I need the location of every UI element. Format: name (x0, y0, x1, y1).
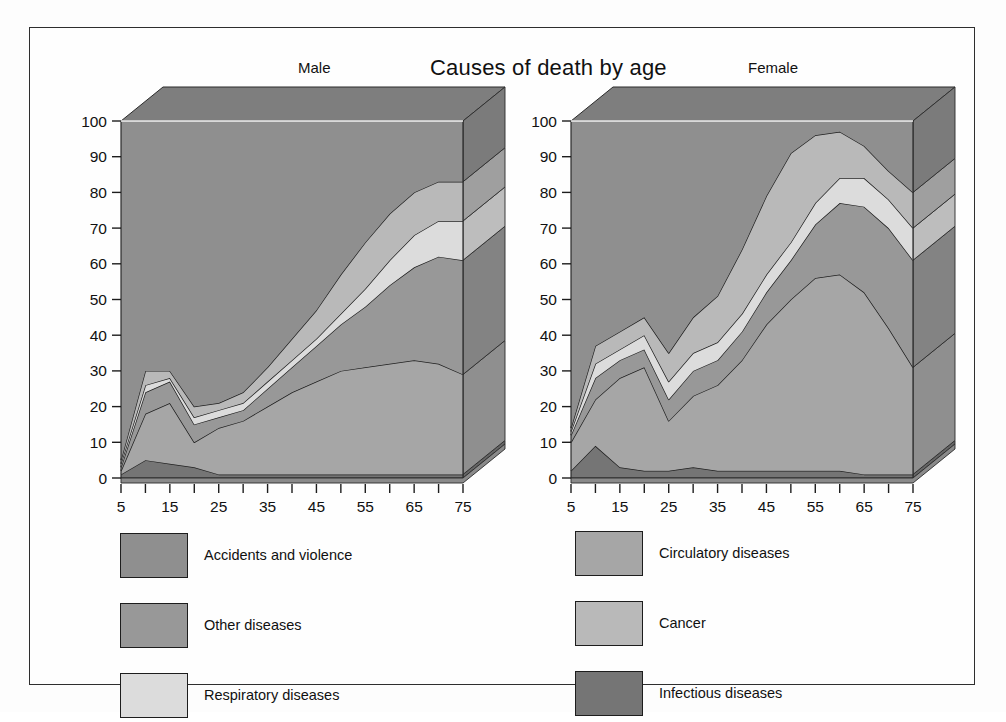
legend-swatch-cancer (575, 601, 643, 646)
legend-item-infectious-diseases: Infectious diseases (575, 658, 790, 722)
legend-label-cancer: Cancer (659, 615, 706, 631)
legend-item-accidents-and-violence: Accidents and violence (120, 520, 352, 590)
legend-swatch-respiratory-diseases (120, 673, 188, 718)
legend-item-respiratory-diseases: Respiratory diseases (120, 660, 352, 722)
svg-text:40: 40 (90, 327, 108, 344)
svg-text:55: 55 (357, 498, 374, 513)
svg-text:10: 10 (90, 434, 108, 451)
figure-frame: Male Causes of death by age Female 01020… (29, 27, 975, 685)
svg-text:80: 80 (90, 184, 108, 201)
svg-text:60: 60 (540, 255, 558, 272)
svg-text:0: 0 (98, 470, 107, 487)
svg-text:20: 20 (90, 398, 108, 415)
svg-text:45: 45 (308, 498, 325, 513)
svg-text:90: 90 (540, 148, 558, 165)
svg-text:70: 70 (90, 220, 108, 237)
svg-text:40: 40 (540, 327, 558, 344)
svg-text:35: 35 (709, 498, 726, 513)
chart-male: 0102030405060708090100515253545556575 (63, 68, 533, 513)
svg-text:90: 90 (90, 148, 108, 165)
svg-text:5: 5 (567, 498, 576, 513)
legend-label-accidents-and-violence: Accidents and violence (204, 547, 352, 563)
svg-text:60: 60 (90, 255, 108, 272)
svg-text:45: 45 (758, 498, 775, 513)
legend-label-respiratory-diseases: Respiratory diseases (204, 687, 339, 703)
svg-text:25: 25 (660, 498, 677, 513)
svg-text:65: 65 (856, 498, 873, 513)
legend-label-infectious-diseases: Infectious diseases (659, 685, 782, 701)
chart-female: 0102030405060708090100515253545556575 (513, 68, 983, 513)
svg-text:70: 70 (540, 220, 558, 237)
svg-text:25: 25 (210, 498, 227, 513)
legend-item-circulatory-diseases: Circulatory diseases (575, 518, 790, 588)
legend-label-other-diseases: Other diseases (204, 617, 302, 633)
legend-swatch-other-diseases (120, 603, 188, 648)
svg-text:0: 0 (548, 470, 557, 487)
svg-text:15: 15 (161, 498, 178, 513)
legend-item-cancer: Cancer (575, 588, 790, 658)
svg-text:20: 20 (540, 398, 558, 415)
legend-swatch-accidents-and-violence (120, 533, 188, 578)
legend-item-other-diseases: Other diseases (120, 590, 352, 660)
legend-swatch-infectious-diseases (575, 671, 643, 716)
svg-text:55: 55 (807, 498, 824, 513)
svg-text:75: 75 (454, 498, 471, 513)
svg-text:80: 80 (540, 184, 558, 201)
legend-swatch-circulatory-diseases (575, 531, 643, 576)
svg-text:50: 50 (90, 291, 108, 308)
svg-text:10: 10 (540, 434, 558, 451)
svg-text:75: 75 (904, 498, 921, 513)
svg-text:35: 35 (259, 498, 276, 513)
svg-text:5: 5 (117, 498, 126, 513)
legend-label-circulatory-diseases: Circulatory diseases (659, 545, 790, 561)
chart-female-svg: 0102030405060708090100515253545556575 (513, 68, 983, 513)
svg-text:100: 100 (81, 113, 107, 130)
legend-right-column: Circulatory diseases Cancer Infectious d… (575, 518, 790, 722)
svg-text:100: 100 (531, 113, 557, 130)
svg-text:30: 30 (90, 362, 108, 379)
svg-text:15: 15 (611, 498, 628, 513)
svg-text:50: 50 (540, 291, 558, 308)
chart-male-svg: 0102030405060708090100515253545556575 (63, 68, 533, 513)
svg-text:30: 30 (540, 362, 558, 379)
legend-left-column: Accidents and violence Other diseases Re… (120, 520, 352, 722)
svg-text:65: 65 (406, 498, 423, 513)
